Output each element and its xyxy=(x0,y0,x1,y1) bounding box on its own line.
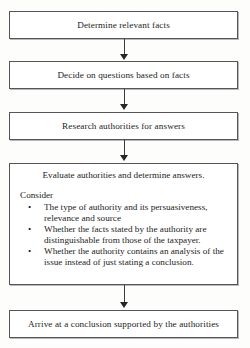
connector-line-2 xyxy=(124,89,125,105)
evaluate-content: Evaluate authorities and determine answe… xyxy=(10,164,237,273)
node-decide-questions-label: Decide on questions based on facts xyxy=(57,70,189,81)
node-determine-facts[interactable]: Determine relevant facts xyxy=(9,11,238,39)
node-research-authorities-label: Research authorities for answers xyxy=(62,121,185,132)
list-item-text: Whether the facts stated by the authorit… xyxy=(44,224,207,245)
list-item: • The type of authority and its persuasi… xyxy=(18,202,229,223)
connector-line-4 xyxy=(124,285,125,303)
bullet-dot-icon: • xyxy=(28,246,31,257)
arrowhead-icon-3 xyxy=(120,155,128,161)
list-item: • Whether the authority contains an anal… xyxy=(18,246,229,267)
node-determine-facts-label: Determine relevant facts xyxy=(77,20,170,31)
connector-line-1 xyxy=(124,39,125,55)
connector-line-3 xyxy=(124,140,125,156)
node-arrive-conclusion-label: Arrive at a conclusion supported by the … xyxy=(28,319,219,330)
bullet-dot-icon: • xyxy=(28,202,31,213)
arrowhead-icon-2 xyxy=(120,104,128,110)
node-arrive-conclusion[interactable]: Arrive at a conclusion supported by the … xyxy=(9,310,238,338)
list-item-text: The type of authority and its persuasive… xyxy=(44,202,208,223)
node-research-authorities[interactable]: Research authorities for answers xyxy=(9,112,238,140)
consider-bullet-list: • The type of authority and its persuasi… xyxy=(18,202,229,268)
node-evaluate-authorities[interactable]: Evaluate authorities and determine answe… xyxy=(9,163,238,285)
node-evaluate-authorities-title: Evaluate authorities and determine answe… xyxy=(18,170,229,181)
list-item: • Whether the facts stated by the author… xyxy=(18,224,229,245)
node-decide-questions[interactable]: Decide on questions based on facts xyxy=(9,61,238,89)
list-item-text: Whether the authority contains an analys… xyxy=(44,246,224,267)
consider-label: Consider xyxy=(20,190,229,201)
flowchart-diagram: Determine relevant facts Decide on quest… xyxy=(0,0,250,348)
bullet-dot-icon: • xyxy=(28,224,31,235)
arrowhead-icon-4 xyxy=(120,302,128,308)
arrowhead-icon-1 xyxy=(120,54,128,60)
